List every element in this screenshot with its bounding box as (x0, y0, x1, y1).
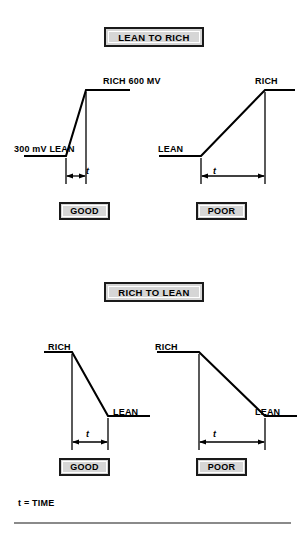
verdict-badge-lean-to-rich-good: GOOD (59, 202, 110, 220)
verdict-badge-lean-to-rich-poor: POOR (196, 202, 247, 220)
verdict-badge-label: GOOD (70, 206, 99, 216)
waveform-start-label-rtl-good: RICH (48, 342, 71, 352)
figure-canvas: LEAN TO RICH 300 mV LEAN RICH 600 MV t G… (0, 0, 305, 535)
dimension-arrowhead-right (258, 439, 265, 444)
verdict-badge-rich-to-lean-poor: POOR (196, 458, 247, 476)
waveform-lean-to-rich-good (18, 72, 148, 194)
waveform-end-label-rtl-poor: LEAN (255, 407, 280, 417)
section-header-rich-to-lean: RICH TO LEAN (104, 282, 204, 302)
waveform-lean-to-rich-poor (155, 72, 295, 194)
dimension-label-rtl-poor: t (213, 429, 216, 439)
dimension-arrowhead-right (79, 173, 86, 178)
dimension-label-ltr-poor: t (213, 166, 216, 176)
verdict-badge-label: POOR (208, 206, 236, 216)
dimension-label-rtl-good: t (86, 429, 89, 439)
dimension-arrowhead-left (72, 439, 79, 444)
waveform-start-label-rtl-poor: RICH (155, 342, 178, 352)
verdict-badge-label: POOR (208, 462, 236, 472)
dimension-arrowhead-left (201, 173, 208, 178)
verdict-badge-label: GOOD (70, 462, 99, 472)
section-header-label: RICH TO LEAN (118, 287, 190, 298)
waveform-start-label-ltr-good: 300 mV LEAN (14, 144, 75, 154)
waveform-end-label-ltr-good: RICH 600 MV (103, 76, 161, 86)
dimension-arrowhead-left (66, 173, 73, 178)
dimension-arrowhead-left (199, 439, 206, 444)
legend-time-definition: t = TIME (18, 498, 54, 508)
section-header-label: LEAN TO RICH (118, 32, 190, 43)
waveform-end-label-rtl-good: LEAN (113, 407, 138, 417)
section-header-lean-to-rich: LEAN TO RICH (104, 27, 204, 47)
waveform-rich-to-lean-good (18, 338, 148, 460)
waveform-start-label-ltr-poor: LEAN (158, 144, 183, 154)
dimension-label-ltr-good: t (86, 166, 89, 176)
waveform-rich-to-lean-poor (155, 338, 295, 460)
verdict-badge-rich-to-lean-good: GOOD (59, 458, 110, 476)
waveform-end-label-ltr-poor: RICH (255, 76, 278, 86)
dimension-arrowhead-right (101, 439, 108, 444)
footer-divider-rule (14, 522, 291, 524)
dimension-arrowhead-right (258, 173, 265, 178)
